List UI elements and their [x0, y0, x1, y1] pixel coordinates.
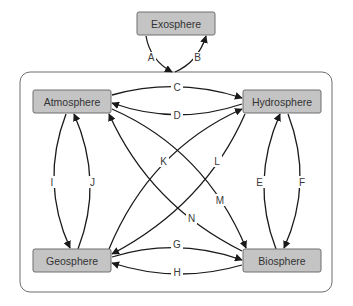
svg-text:E: E: [256, 177, 263, 188]
svg-text:B: B: [194, 52, 201, 63]
svg-text:K: K: [160, 156, 167, 167]
svg-text:Exosphere: Exosphere: [151, 18, 201, 30]
edge-label-n: N: [186, 212, 197, 224]
node-atmosphere: Atmosphere: [33, 90, 111, 113]
svg-text:N: N: [188, 213, 195, 224]
edge-label-m: M: [214, 194, 226, 206]
svg-text:H: H: [173, 267, 180, 278]
node-biosphere: Biosphere: [243, 249, 321, 272]
svg-text:G: G: [173, 239, 181, 250]
svg-text:I: I: [51, 177, 54, 188]
edge-label-c: C: [171, 81, 183, 93]
svg-text:Geosphere: Geosphere: [46, 255, 98, 267]
edge-label-e: E: [255, 176, 265, 188]
edge-label-g: G: [171, 238, 183, 250]
edge-label-h: H: [171, 266, 183, 278]
edge-label-i: I: [48, 176, 56, 188]
svg-text:A: A: [148, 52, 155, 63]
edge-label-d: D: [171, 109, 183, 121]
svg-text:F: F: [299, 177, 305, 188]
svg-text:Hydrosphere: Hydrosphere: [252, 96, 312, 108]
edge-label-f: F: [297, 176, 307, 188]
sphere-interaction-diagram: A B C D I J E F G H K L: [0, 0, 353, 306]
svg-text:C: C: [173, 82, 180, 93]
svg-text:J: J: [90, 177, 95, 188]
edge-label-l: L: [212, 155, 222, 167]
edge-label-k: K: [158, 155, 169, 167]
svg-text:M: M: [216, 195, 224, 206]
node-hydrosphere: Hydrosphere: [243, 90, 321, 113]
edge-label-a: A: [147, 52, 156, 63]
node-geosphere: Geosphere: [33, 249, 111, 272]
edge-label-b: B: [193, 52, 202, 63]
edge-label-j: J: [88, 176, 97, 188]
node-exosphere: Exosphere: [137, 12, 215, 35]
svg-text:L: L: [214, 156, 220, 167]
svg-text:D: D: [173, 110, 180, 121]
svg-text:Biosphere: Biosphere: [258, 255, 305, 267]
svg-text:Atmosphere: Atmosphere: [44, 96, 101, 108]
